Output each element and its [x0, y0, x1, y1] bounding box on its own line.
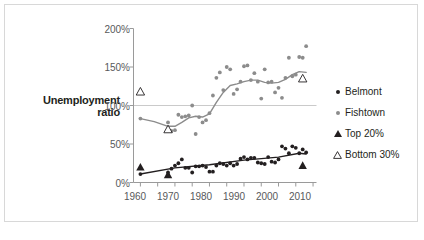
- legend-label-bottom-30: Bottom 30%: [345, 149, 399, 160]
- legend-label-fishtown: Fishtown: [345, 107, 385, 118]
- triangle-filled-icon: [331, 130, 344, 137]
- legend-item-fishtown[interactable]: Fishtown: [331, 102, 399, 123]
- dot-icon: [331, 111, 344, 115]
- legend-item-bottom-30[interactable]: Bottom 30%: [331, 144, 399, 165]
- legend-item-belmont[interactable]: Belmont: [331, 81, 399, 102]
- legend-label-top-20: Top 20%: [345, 128, 384, 139]
- legend-item-top-20[interactable]: Top 20%: [331, 123, 399, 144]
- data-series: [136, 44, 308, 178]
- dot-icon: [331, 90, 344, 94]
- chart-legend: Belmont Fishtown Top 20% Bottom 30%: [331, 81, 399, 165]
- triangle-open-icon: [331, 151, 344, 159]
- legend-label-belmont: Belmont: [345, 86, 382, 97]
